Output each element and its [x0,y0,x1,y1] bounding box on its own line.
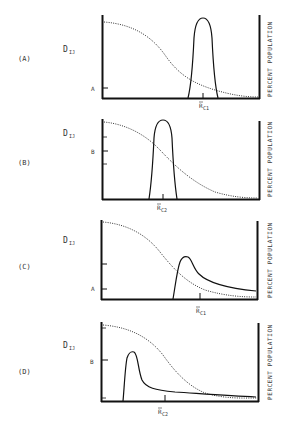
dij-curve [104,22,258,97]
population-curve [188,18,218,98]
y-label-left-sub: IJ [69,345,75,351]
x-marker-sub: C2 [162,411,168,417]
y-tick-label: A [91,285,95,292]
y-tick-label: B [91,148,95,155]
figure-canvas: (A) D IJ A R C1 PERCENT POPULATION (B) D… [0,0,289,427]
x-marker-sub: C1 [203,105,209,111]
population-curve [123,352,256,401]
y-tick-label: B [90,358,94,365]
panel-tag: (C) [18,263,31,271]
x-marker-sub: C2 [161,207,167,213]
y-label-left: D [63,236,68,245]
y-label-left: D [63,341,68,350]
y-label-right: PERCENT POPULATION [266,21,273,97]
x-marker-sub: C1 [200,310,206,316]
panel-b: (B) D IJ B R C2 PERCENT POPULATION [18,119,273,213]
y-label-left-sub: IJ [69,49,75,55]
y-tick-label: A [91,85,95,92]
panel-tag: (B) [18,159,31,167]
dij-curve [103,222,256,297]
panel-tag: (A) [18,55,31,63]
y-label-right: PERCENT POPULATION [266,222,273,298]
dij-curve [104,122,258,198]
y-label-left-sub: IJ [69,240,75,246]
y-label-left: D [63,129,68,138]
panel-c: (C) D IJ A R C1 PERCENT POPULATION [18,220,273,316]
y-label-right: PERCENT POPULATION [266,121,273,197]
panel-a: (A) D IJ A R C1 PERCENT POPULATION [18,15,273,111]
population-curve [173,257,256,299]
panel-d: (D) D IJ B R C2 PERCENT POPULATION [18,322,273,417]
y-label-left: D [63,45,68,54]
y-label-right: PERCENT POPULATION [266,324,273,400]
panel-tag: (D) [18,368,31,376]
population-curve [149,120,177,199]
y-label-left-sub: IJ [69,133,75,139]
